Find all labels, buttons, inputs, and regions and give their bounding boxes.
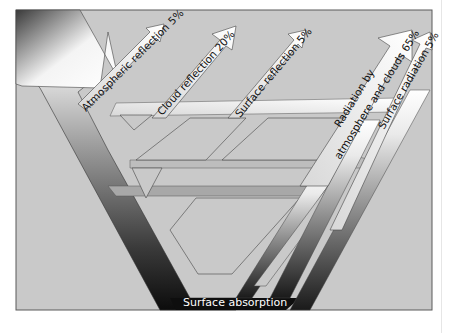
energy-flow-diagram: Atmospheric reflection 5% Cloud reflecti… xyxy=(0,0,466,333)
page-margin xyxy=(441,0,466,333)
surface-absorption-label: Surface absorption xyxy=(183,296,287,309)
